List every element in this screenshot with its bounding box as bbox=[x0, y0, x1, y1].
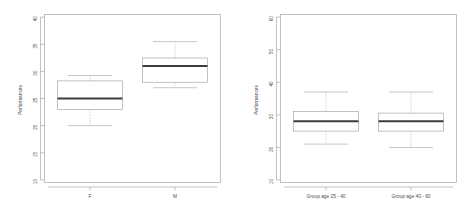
x-axis bbox=[48, 187, 217, 191]
x-category-label-m: M bbox=[173, 194, 177, 199]
y-tick-label: 20 bbox=[33, 124, 38, 130]
y-tick-label: 40 bbox=[269, 81, 274, 87]
panel-agegroup-canvas: 60 50 40 30 20 10 Performances bbox=[236, 0, 472, 210]
x-category-label-f: F bbox=[89, 194, 92, 199]
box-iqr bbox=[143, 58, 208, 82]
y-tick-label: 15 bbox=[33, 152, 38, 158]
boxplot-group-25-40 bbox=[294, 92, 359, 144]
boxplot-f bbox=[58, 76, 123, 126]
y-axis-ticks: 40 35 30 25 20 15 10 bbox=[33, 16, 45, 184]
x-category-label-group-40-60: Group age 40 - 60 bbox=[392, 194, 431, 199]
y-tick-label: 10 bbox=[269, 179, 274, 185]
boxplot-figure: 40 35 30 25 20 15 10 Performances bbox=[0, 0, 472, 210]
y-tick-label: 40 bbox=[33, 16, 38, 22]
y-tick-label: 35 bbox=[33, 43, 38, 49]
panel-agegroup: 60 50 40 30 20 10 Performances bbox=[236, 0, 472, 210]
boxplot-m bbox=[143, 42, 208, 88]
y-tick-label: 60 bbox=[269, 16, 274, 22]
y-tick-label: 30 bbox=[269, 114, 274, 120]
panel-gender: 40 35 30 25 20 15 10 Performances bbox=[0, 0, 236, 210]
panel-gender-canvas: 40 35 30 25 20 15 10 Performances bbox=[0, 0, 236, 210]
y-tick-label: 30 bbox=[33, 70, 38, 76]
box-iqr bbox=[58, 81, 123, 110]
y-axis-ticks: 60 50 40 30 20 10 bbox=[269, 16, 281, 184]
y-tick-label: 50 bbox=[269, 48, 274, 54]
x-axis bbox=[284, 187, 453, 191]
y-tick-label: 25 bbox=[33, 97, 38, 103]
x-category-label-group-25-40: Group age 25 - 40 bbox=[307, 194, 346, 199]
y-tick-label: 20 bbox=[269, 146, 274, 152]
plot-frame bbox=[281, 15, 457, 183]
boxplot-group-40-60 bbox=[379, 92, 444, 148]
y-tick-label: 10 bbox=[33, 179, 38, 185]
y-axis-title: Performances bbox=[18, 84, 23, 114]
y-axis-title: Performances bbox=[254, 84, 259, 114]
